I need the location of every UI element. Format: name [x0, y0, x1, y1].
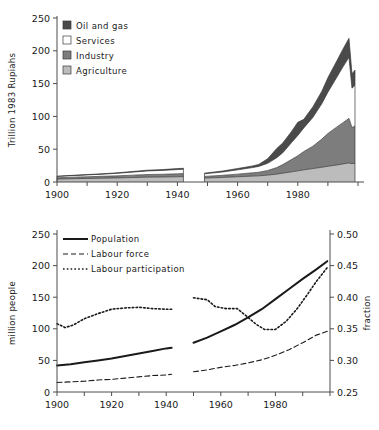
population-x-tick-label: 1900	[45, 399, 69, 410]
legend-swatch-3	[63, 66, 71, 74]
legend-label-1: Labour force	[91, 249, 149, 259]
chart-population-and-labour: 0501001502002500.250.300.350.400.450.501…	[0, 212, 379, 430]
population-y2-tick-label: 0.25	[337, 387, 358, 398]
gdp-y-tick-label: 0	[44, 177, 50, 188]
series-labour-participation-pre	[57, 307, 172, 327]
population-y-tick-label: 250	[32, 229, 50, 240]
gdp-y-tick-label: 250	[32, 13, 50, 24]
gdp-legend: Oil and gasServicesIndustryAgriculture	[63, 21, 128, 76]
series-population-post	[194, 261, 328, 343]
gdp-x-tick-label: 1960	[226, 189, 250, 200]
gdp-x-tick-label: 1940	[165, 189, 189, 200]
legend-swatch-0	[63, 21, 71, 29]
series-labour-force-pre	[57, 374, 172, 382]
legend-label-1: Services	[76, 36, 115, 46]
population-y2-tick-label: 0.45	[337, 260, 358, 271]
legend-label-2: Labour participation	[91, 264, 185, 274]
series-population-pre	[57, 348, 172, 366]
population-y-axis-title: million people	[7, 281, 17, 345]
population-y2-tick-label: 0.35	[337, 323, 358, 334]
population-x-tick-label: 1960	[209, 399, 233, 410]
legend-label-0: Oil and gas	[76, 21, 128, 31]
population-y-tick-label: 0	[44, 387, 50, 398]
figure-container: 05010015020025019001920194019601980Trill…	[0, 0, 379, 430]
gdp-x-tick-label: 1900	[45, 189, 69, 200]
gdp-y-tick-label: 150	[32, 78, 50, 89]
population-y2-axis-title: fraction	[362, 295, 372, 330]
gdp-chart-svg: 05010015020025019001920194019601980Trill…	[0, 0, 379, 212]
legend-label-2: Industry	[76, 51, 114, 61]
population-y-tick-label: 200	[32, 260, 50, 271]
legend-label-0: Population	[91, 234, 140, 244]
legend-swatch-2	[63, 51, 71, 59]
population-chart-svg: 0501001502002500.250.300.350.400.450.501…	[0, 212, 379, 430]
gdp-y-tick-label: 100	[32, 111, 50, 122]
legend-label-3: Agriculture	[76, 66, 127, 76]
population-y2-tick-label: 0.50	[337, 229, 358, 240]
legend-swatch-1	[63, 36, 71, 44]
gdp-x-tick-label: 1980	[286, 189, 310, 200]
population-y2-tick-label: 0.30	[337, 355, 358, 366]
population-y-tick-label: 150	[32, 292, 50, 303]
chart-gdp-by-sector: 05010015020025019001920194019601980Trill…	[0, 0, 379, 212]
series-labour-force-post	[194, 331, 328, 371]
population-x-tick-label: 1920	[100, 399, 124, 410]
population-y-tick-label: 100	[32, 323, 50, 334]
population-x-tick-label: 1980	[263, 399, 287, 410]
gdp-y-tick-label: 200	[32, 45, 50, 56]
population-legend: PopulationLabour forceLabour participati…	[63, 234, 185, 274]
population-y-tick-label: 50	[38, 355, 50, 366]
population-x-tick-label: 1940	[154, 399, 178, 410]
population-y2-tick-label: 0.40	[337, 292, 358, 303]
gdp-x-tick-label: 1920	[105, 189, 129, 200]
gdp-y-tick-label: 50	[38, 144, 50, 155]
gdp-y-axis-title: Trillion 1983 Rupiahs	[7, 52, 17, 148]
population-plot-area	[57, 261, 327, 382]
